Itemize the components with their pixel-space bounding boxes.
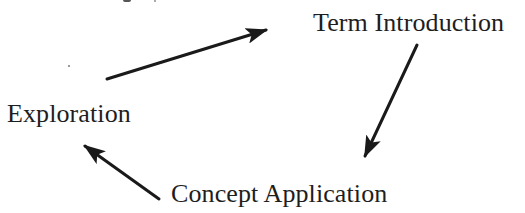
node-term-introduction: Term Introduction	[313, 10, 504, 36]
node-exploration: Exploration	[7, 101, 131, 127]
arrow-concept-to-exploration	[85, 146, 159, 199]
arrow-exploration-to-term	[107, 30, 266, 79]
node-concept-application: Concept Application	[171, 181, 387, 207]
arrow-term-to-concept	[365, 45, 417, 156]
learning-cycle-diagram: Term Introduction Exploration Concept Ap…	[0, 0, 525, 213]
